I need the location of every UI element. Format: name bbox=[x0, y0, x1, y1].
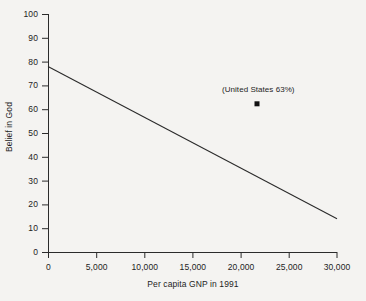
x-tick-label-10000: 10,000 bbox=[118, 262, 172, 272]
y-tick-label-90: 90 bbox=[12, 33, 38, 43]
y-tick-label-80: 80 bbox=[12, 57, 38, 67]
x-axis-title: Per capita GNP in 1991 bbox=[48, 279, 338, 289]
y-axis-title: Belief in God bbox=[4, 87, 14, 167]
y-tick-label-0: 0 bbox=[12, 247, 38, 257]
y-tick-label-40: 40 bbox=[12, 152, 38, 162]
x-tick-label-30000: 30,000 bbox=[310, 262, 364, 272]
x-tick-label-20000: 20,000 bbox=[214, 262, 268, 272]
y-tick-label-100: 100 bbox=[12, 9, 38, 19]
y-tick-label-20: 20 bbox=[12, 199, 38, 209]
chart-figure: 100 90 80 70 60 50 40 30 20 10 0 0 5,000… bbox=[0, 0, 366, 301]
y-tick-label-30: 30 bbox=[12, 176, 38, 186]
united-states-annotation: (United States 63%) bbox=[222, 85, 295, 94]
united-states-marker bbox=[255, 101, 260, 106]
y-tick-marks bbox=[42, 15, 48, 253]
x-tick-label-25000: 25,000 bbox=[262, 262, 316, 272]
x-tick-label-15000: 15,000 bbox=[166, 262, 220, 272]
x-tick-label-0: 0 bbox=[22, 262, 76, 272]
y-tick-label-60: 60 bbox=[12, 104, 38, 114]
x-tick-label-5000: 5,000 bbox=[70, 262, 124, 272]
y-tick-label-70: 70 bbox=[12, 80, 38, 90]
plot-area bbox=[0, 0, 366, 301]
y-tick-label-50: 50 bbox=[12, 128, 38, 138]
y-tick-label-10: 10 bbox=[12, 223, 38, 233]
